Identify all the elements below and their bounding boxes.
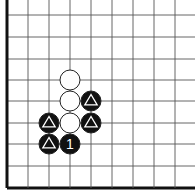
white-stone[interactable] — [60, 91, 80, 111]
go-board: 1 — [0, 0, 195, 193]
go-board-grid: 1 — [0, 0, 195, 193]
move-number-label: 1 — [66, 136, 74, 152]
white-stone[interactable] — [60, 113, 80, 133]
white-stone[interactable] — [60, 70, 80, 90]
